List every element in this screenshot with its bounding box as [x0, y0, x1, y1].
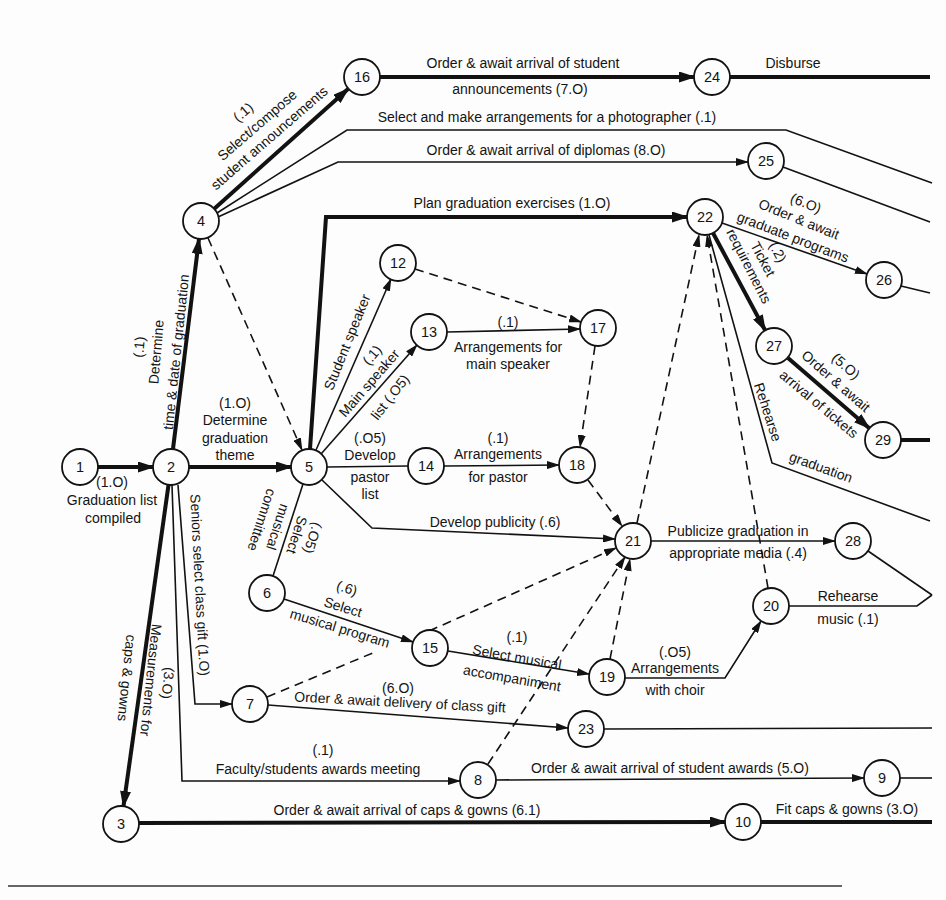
node-number: 15	[422, 640, 438, 656]
node-number: 7	[246, 696, 254, 712]
activity-2-5-duration: (1.O)	[219, 395, 251, 411]
node-number: 8	[474, 772, 482, 788]
event-node-1: 1	[62, 449, 98, 485]
node-number: 20	[763, 598, 779, 614]
event-node-29: 29	[865, 422, 901, 458]
node-number: 17	[590, 320, 606, 336]
activity-5-21-label: Develop publicity (.6)	[430, 514, 561, 530]
activity-1-2-label: compiled	[85, 510, 141, 526]
activity-6-15-duration: (.6)	[335, 577, 360, 598]
activity-21-28-label: Publicize graduation in	[668, 523, 809, 539]
activity-5-22-label: Plan graduation exercises (1.O)	[414, 195, 611, 211]
event-node-25: 25	[748, 143, 784, 179]
activity-2-8-label: Faculty/students awards meeting	[216, 761, 421, 777]
event-node-7: 7	[232, 686, 268, 722]
event-node-14: 14	[408, 448, 444, 484]
activity-8-9-line	[496, 778, 864, 780]
dummy-21-22-line	[637, 235, 699, 523]
event-node-12: 12	[380, 245, 416, 281]
activity-3-10-label: Order & await arrival of caps & gowns (6…	[274, 802, 541, 818]
node-number: 12	[390, 255, 406, 271]
activity-1-2-duration: (1.O)	[96, 474, 128, 490]
node-number: 6	[263, 585, 271, 601]
node-number: 5	[305, 459, 313, 475]
activity-1-2-label: Graduation list	[67, 492, 157, 508]
activity-23-out-line	[604, 728, 932, 729]
activity-8-9-label: Order & await arrival of student awards …	[531, 760, 809, 776]
activity-13-17-label: Arrangements for	[454, 339, 562, 355]
activity-21-28-label: appropriate media (.4)	[669, 545, 807, 561]
node-number: 25	[758, 153, 774, 169]
activity-14-18-duration: (.1)	[488, 430, 509, 446]
node-number: 9	[878, 770, 886, 786]
activity-2-4-label: time & date of graduation	[160, 273, 192, 430]
event-node-8: 8	[460, 762, 496, 798]
node-number: 4	[197, 213, 205, 229]
event-node-23: 23	[568, 711, 604, 747]
activity-2-4-label: Determine	[145, 319, 167, 385]
activity-2-8-duration: (.1)	[313, 742, 334, 758]
activity-15-19-duration: (.1)	[507, 629, 528, 645]
activity-24-out-label: Disburse	[765, 55, 820, 71]
event-node-6: 6	[249, 575, 285, 611]
activity-20-out-label: music (.1)	[817, 611, 878, 627]
event-node-3: 3	[103, 806, 139, 842]
node-number: 22	[697, 209, 713, 225]
event-node-28: 28	[835, 523, 871, 559]
event-node-18: 18	[559, 447, 595, 483]
activity-19-20-label: with choir	[644, 682, 704, 698]
dummy-17-18-line	[580, 346, 595, 447]
event-node-21: 21	[615, 523, 651, 559]
activity-5-14-duration: (.O5)	[354, 430, 386, 446]
node-number: 24	[704, 69, 720, 85]
activity-2-5-label: theme	[216, 447, 255, 463]
event-node-2: 2	[153, 449, 189, 485]
activity-2-3-duration: (3.O)	[158, 666, 177, 699]
event-node-19: 19	[589, 659, 625, 695]
node-number: 28	[845, 533, 861, 549]
activity-2-4-duration: (.1)	[130, 336, 148, 358]
node-number: 2	[167, 459, 175, 475]
activity-14-18-line	[444, 465, 559, 466]
node-number: 3	[117, 816, 125, 832]
node-number: 10	[735, 814, 751, 830]
activity-16-24-label: Order & await arrival of student	[427, 55, 620, 71]
event-node-10: 10	[725, 804, 761, 840]
event-node-16: 16	[344, 59, 380, 95]
activity-13-17-label: main speaker	[466, 356, 550, 372]
node-number: 29	[875, 432, 891, 448]
activity-5-14-label: list	[361, 486, 378, 502]
node-number: 21	[625, 533, 641, 549]
event-node-20: 20	[753, 588, 789, 624]
activity-2-5-label: graduation	[202, 430, 268, 446]
node-number: 16	[354, 69, 370, 85]
pert-network-diagram: (1.O) Graduation list compiled (.1) Dete…	[0, 0, 946, 900]
activity-20-out-label: Rehearse	[818, 588, 879, 604]
node-number: 23	[578, 721, 594, 737]
activity-4-25-label: Order & await arrival of diplomas (8.O)	[427, 142, 666, 158]
event-node-24: 24	[694, 59, 730, 95]
event-node-4: 4	[183, 203, 219, 239]
activity-5-14-label: pastor	[351, 469, 390, 485]
activity-14-18-label: Arrangements	[454, 446, 542, 462]
node-number: 18	[569, 457, 585, 473]
node-number: 14	[418, 458, 434, 474]
node-number: 27	[766, 338, 782, 354]
activity-16-24-label: announcements (7.O)	[452, 81, 587, 97]
activity-4-photographer-label: Select and make arrangements for a photo…	[378, 109, 717, 125]
activity-13-17-duration: (.1)	[498, 314, 519, 330]
event-node-27: 27	[756, 328, 792, 364]
activity-10-out-label: Fit caps & gowns (3.O)	[776, 801, 918, 817]
activity-4-16-label: student announcements	[207, 83, 330, 193]
node-number: 19	[599, 669, 615, 685]
event-node-13: 13	[411, 314, 447, 350]
event-node-15: 15	[412, 630, 448, 666]
activity-19-20-duration: (.O5)	[659, 644, 691, 660]
dummy-15-21-line	[429, 548, 616, 631]
activity-2-5-label: Determine	[203, 412, 268, 428]
node-number: 1	[76, 459, 84, 475]
event-node-5: 5	[291, 449, 327, 485]
event-node-26: 26	[866, 262, 902, 298]
node-number: 13	[421, 324, 437, 340]
activity-26-out-line	[901, 286, 930, 293]
